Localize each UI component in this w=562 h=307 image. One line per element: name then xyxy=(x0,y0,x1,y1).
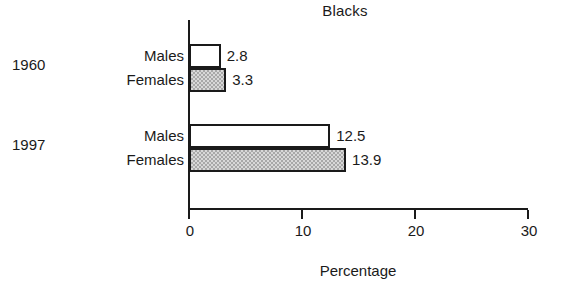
bar xyxy=(189,44,221,68)
bar-value-label: 2.8 xyxy=(227,44,248,68)
x-axis-tick xyxy=(527,210,529,219)
bar xyxy=(189,124,330,148)
x-axis-tick xyxy=(188,210,190,219)
x-axis-line xyxy=(188,208,528,210)
bar-row-label: Males xyxy=(74,44,184,68)
x-axis-tick-label: 20 xyxy=(386,222,446,239)
bar-row-label: Males xyxy=(74,124,184,148)
x-axis-tick-label: 0 xyxy=(160,222,220,239)
group-label-1960: 1960 xyxy=(12,56,82,73)
bar-chart: Blacks 0102030 Percentage 1960Males2.8Fe… xyxy=(0,0,562,307)
x-axis-tick xyxy=(301,210,303,219)
bar xyxy=(189,148,346,172)
bar-row-label: Females xyxy=(74,148,184,172)
bar-value-label: 12.5 xyxy=(336,124,365,148)
plot-area: 0102030 Percentage 1960Males2.8Females3.… xyxy=(0,0,562,307)
bar xyxy=(189,68,226,92)
x-axis-tick-label: 30 xyxy=(499,222,559,239)
x-axis-title: Percentage xyxy=(188,262,528,279)
bar-row-label: Females xyxy=(74,68,184,92)
bar-value-label: 3.3 xyxy=(232,68,253,92)
group-label-1997: 1997 xyxy=(12,136,82,153)
x-axis-tick-label: 10 xyxy=(273,222,333,239)
x-axis-tick xyxy=(414,210,416,219)
bar-value-label: 13.9 xyxy=(352,148,381,172)
